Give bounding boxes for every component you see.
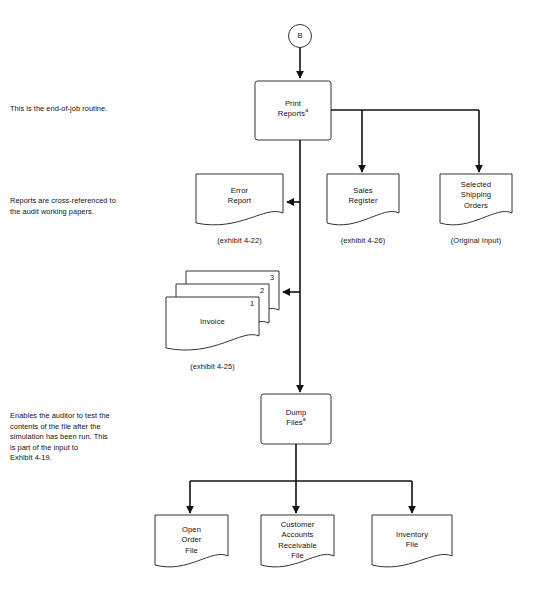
connector-b-label: B: [290, 31, 310, 40]
process-print-reports-shape: [255, 81, 331, 140]
flowchart-graphics: [0, 0, 536, 594]
annotation-dump-files: Enables the auditor to test the contents…: [10, 411, 190, 464]
annotation-cross-reference: Reports are cross-referenced to the audi…: [10, 196, 185, 217]
document-error-report-caption: (exhibit 4-22): [196, 236, 283, 245]
document-invoice-stack-number-2: 2: [260, 286, 264, 295]
process-dump-files-shape: [261, 394, 331, 444]
document-inventory-file-shape: [372, 515, 452, 567]
document-selected-shipping-orders-caption: (Original Input): [434, 236, 518, 245]
document-sales-register-caption: (exhibit 4-26): [327, 236, 399, 245]
annotation-end-of-job: This is the end-of-job routine.: [10, 104, 185, 115]
document-invoice-copy-1-shape: [166, 297, 259, 350]
document-invoice-stack-number-1: 1: [250, 299, 254, 308]
document-open-order-file-shape: [155, 515, 228, 567]
document-sales-register-shape: [327, 174, 399, 225]
document-invoice-caption: (exhibit 4-25): [166, 362, 259, 371]
document-selected-shipping-orders-shape: [440, 174, 512, 225]
flowchart-canvas: B This is the end-of-job routine. Report…: [0, 0, 536, 594]
document-error-report-shape: [196, 174, 283, 225]
document-invoice-stack-number-3: 3: [270, 273, 274, 282]
document-customer-accounts-receivable-file-shape: [261, 515, 334, 567]
